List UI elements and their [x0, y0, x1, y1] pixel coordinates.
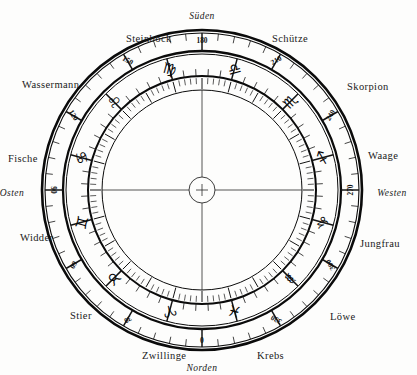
zodiac-name-label: Jungfrau: [360, 238, 400, 249]
inner-graduation-tick: [156, 287, 158, 292]
degree-minor-tick: [53, 236, 60, 238]
zodiac-minor-tick: [304, 242, 310, 245]
inner-graduation-tick: [105, 134, 115, 140]
degree-minor-tick: [302, 73, 307, 78]
zodiac-minor-tick: [89, 231, 96, 234]
inner-graduation-tick: [306, 167, 312, 168]
inner-graduation-tick: [162, 85, 164, 91]
inner-graduation-tick: [260, 279, 263, 284]
inner-graduation-tick: [167, 291, 169, 297]
zodiac-minor-tick: [304, 135, 310, 138]
degree-minor-tick: [75, 278, 81, 282]
inner-graduation-tick: [100, 233, 105, 235]
zodiac-minor-tick: [220, 70, 221, 77]
zodiac-minor-tick: [243, 77, 246, 84]
inner-graduation-tick: [179, 294, 180, 300]
inner-graduation-tick: [301, 228, 307, 230]
zodiac-minor-tick: [101, 124, 107, 128]
inner-graduation-tick: [127, 269, 131, 273]
zodiac-minor-tick: [274, 279, 278, 284]
inner-graduation-tick: [306, 212, 312, 213]
inner-graduation-tick: [132, 272, 136, 277]
zodiac-minor-tick: [82, 171, 89, 172]
zodiac-minor-tick: [298, 252, 304, 256]
zodiac-minor-tick: [308, 231, 315, 234]
zodiac-minor-tick: [308, 147, 315, 150]
inner-graduation-tick: [123, 261, 131, 269]
inner-graduation-tick: [111, 124, 116, 128]
cardinal-label-top: Süden: [189, 11, 215, 21]
zodiac-minor-tick: [274, 96, 278, 101]
degree-number-label: 120: [67, 108, 80, 122]
degree-minor-tick: [59, 126, 65, 129]
degree-minor-tick: [218, 34, 219, 41]
degree-minor-tick: [263, 327, 266, 333]
degree-minor-tick: [351, 174, 358, 175]
degree-minor-tick: [138, 327, 141, 333]
inner-graduation-tick: [291, 129, 296, 132]
degree-minor-tick: [323, 278, 329, 282]
inner-graduation-tick: [102, 139, 107, 142]
inner-graduation-tick: [299, 233, 304, 235]
zodiac-name-label: Steinbock: [126, 33, 172, 44]
zodiac-name-label: Stier: [70, 310, 92, 321]
degree-minor-tick: [218, 339, 219, 346]
inner-graduation-tick: [301, 150, 307, 152]
inner-graduation-tick: [303, 155, 309, 157]
inner-graduation-tick: [91, 178, 97, 179]
inner-graduation-tick: [284, 257, 289, 261]
inner-graduation-tick: [224, 294, 225, 300]
degree-minor-tick: [186, 339, 187, 346]
inner-graduation-tick: [91, 207, 97, 208]
inner-graduation-tick: [94, 216, 105, 219]
aries-glyph: ♈: [161, 300, 179, 321]
degree-minor-tick: [302, 301, 307, 306]
inner-graduation-tick: [141, 96, 144, 101]
cardinal-label-right: Westen: [377, 188, 407, 198]
inner-graduation-tick: [92, 212, 98, 213]
inner-graduation-tick: [91, 201, 97, 202]
inner-graduation-tick: [179, 80, 180, 86]
degree-number-label: 90: [49, 186, 58, 194]
degree-minor-tick: [97, 73, 102, 78]
zodiac-minor-tick: [291, 114, 296, 118]
degree-minor-tick: [313, 85, 318, 90]
inner-graduation-tick: [240, 85, 242, 91]
inner-graduation-tick: [307, 172, 313, 173]
inner-graduation-tick: [235, 291, 237, 297]
degree-minor-tick: [138, 47, 141, 53]
inner-graduation-tick: [300, 161, 311, 164]
inner-graduation-tick: [307, 207, 313, 208]
inner-graduation-tick: [250, 284, 253, 289]
zodiac-minor-tick: [183, 303, 184, 310]
cardinal-label-bottom: Norden: [186, 363, 217, 373]
inner-graduation-tick: [253, 93, 259, 103]
degree-minor-tick: [290, 311, 294, 317]
inner-graduation-tick: [281, 261, 285, 265]
zodiac-minor-tick: [220, 303, 221, 310]
degree-minor-tick: [351, 206, 358, 207]
inner-graduation-tick: [97, 150, 103, 152]
inner-graduation-tick: [119, 115, 123, 119]
zodiac-minor-tick: [108, 114, 113, 118]
inner-graduation-tick: [136, 99, 140, 104]
gemini-glyph: ♊: [71, 214, 92, 232]
inner-graduation-tick: [307, 178, 313, 179]
inner-graduation-tick: [151, 90, 154, 95]
zodiac-minor-tick: [159, 77, 162, 84]
degree-minor-tick: [48, 157, 55, 158]
inner-graduation-tick: [296, 238, 301, 241]
capricorn-glyph: ♑: [312, 214, 333, 232]
inner-graduation-tick: [288, 124, 293, 128]
zodiac-minor-tick: [254, 292, 257, 298]
inner-graduation-tick: [240, 289, 242, 295]
degree-minor-tick: [323, 98, 329, 102]
degree-minor-tick: [233, 337, 234, 344]
degree-minor-tick: [339, 251, 345, 254]
degree-minor-tick: [263, 47, 266, 53]
inner-graduation-tick: [95, 155, 101, 157]
inner-graduation-tick: [289, 241, 299, 247]
center-hub-group: [189, 177, 215, 203]
inner-graduation-tick: [127, 107, 131, 111]
cardinal-label-left: Osten: [0, 188, 24, 198]
